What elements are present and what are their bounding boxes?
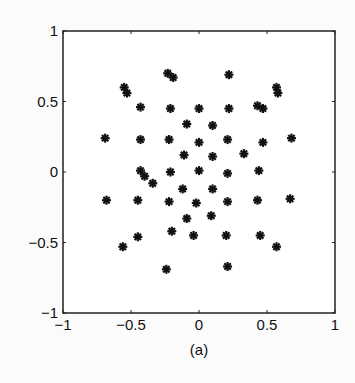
asterisk-marker — [223, 135, 232, 144]
y-tick-label: 1 — [50, 22, 58, 39]
x-tick-label: 0.5 — [257, 316, 278, 333]
asterisk-marker — [122, 89, 131, 98]
asterisk-marker — [166, 104, 175, 113]
y-tick-label: −0.5 — [28, 234, 58, 251]
asterisk-marker — [256, 231, 265, 240]
asterisk-marker — [182, 120, 191, 129]
asterisk-marker — [272, 242, 281, 251]
asterisk-marker — [223, 262, 232, 271]
asterisk-marker — [254, 166, 263, 175]
asterisk-marker — [133, 232, 142, 241]
asterisk-marker — [258, 138, 267, 147]
asterisk-marker — [286, 194, 295, 203]
scatter-chart: −1−0.500.51 −1−0.500.51 (a) — [0, 0, 355, 383]
asterisk-marker — [208, 152, 217, 161]
asterisk-marker — [165, 197, 174, 206]
asterisk-marker — [273, 89, 282, 98]
asterisk-marker — [208, 121, 217, 130]
x-tick-label: −0.5 — [116, 316, 146, 333]
asterisk-marker — [192, 199, 201, 208]
x-axis-tick-labels: −1−0.500.51 — [54, 316, 339, 333]
y-tick-label: 0 — [50, 163, 58, 180]
asterisk-marker — [136, 103, 145, 112]
asterisk-marker — [189, 231, 198, 240]
asterisk-marker — [287, 134, 296, 143]
asterisk-marker — [136, 135, 145, 144]
x-tick-label: −1 — [54, 316, 71, 333]
asterisk-marker — [140, 172, 149, 181]
asterisk-marker — [195, 104, 204, 113]
asterisk-marker — [239, 149, 248, 158]
figure-caption: (a) — [190, 341, 208, 358]
asterisk-marker — [195, 166, 204, 175]
asterisk-marker — [118, 242, 127, 251]
asterisk-marker — [101, 134, 110, 143]
asterisk-marker — [258, 104, 267, 113]
asterisk-marker — [223, 197, 232, 206]
asterisk-marker — [102, 196, 111, 205]
asterisk-marker — [178, 184, 187, 193]
asterisk-marker — [224, 70, 233, 79]
asterisk-marker — [195, 138, 204, 147]
x-tick-label: 0 — [195, 316, 203, 333]
asterisk-marker — [182, 214, 191, 223]
asterisk-marker — [253, 196, 262, 205]
asterisk-marker — [224, 104, 233, 113]
asterisk-marker — [222, 231, 231, 240]
y-tick-label: 0.5 — [37, 93, 58, 110]
y-axis-tick-labels: −1−0.500.51 — [28, 22, 58, 321]
asterisk-marker — [165, 135, 174, 144]
asterisk-marker — [180, 151, 189, 160]
asterisk-marker — [208, 184, 217, 193]
asterisk-marker — [169, 73, 178, 82]
asterisk-marker — [166, 168, 175, 177]
asterisk-marker — [207, 211, 216, 220]
asterisk-marker — [223, 169, 232, 178]
asterisk-marker — [148, 179, 157, 188]
x-tick-label: 1 — [331, 316, 339, 333]
asterisk-marker — [162, 265, 171, 274]
asterisk-marker — [133, 196, 142, 205]
asterisk-marker — [167, 227, 176, 236]
